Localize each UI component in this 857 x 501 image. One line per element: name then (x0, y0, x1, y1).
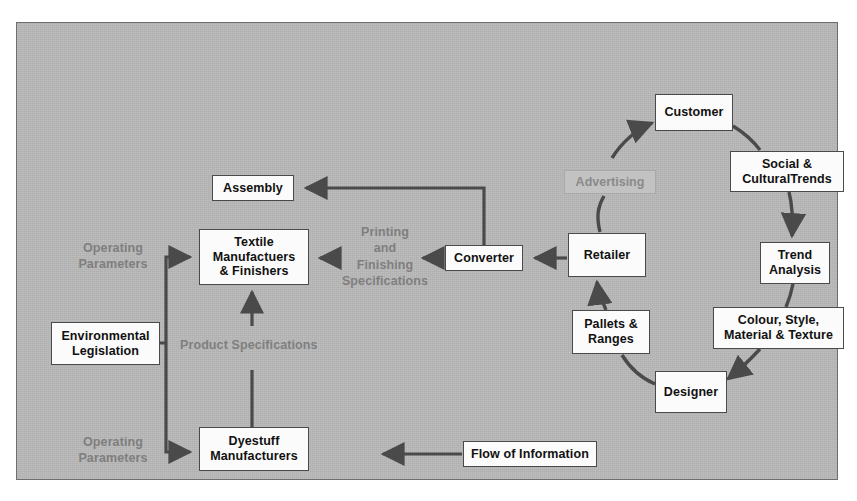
label-operating-parameters-top: Operating Parameters (59, 240, 167, 273)
node-colour-style-material-texture[interactable]: Colour, Style, Material & Texture (713, 307, 844, 349)
node-assembly[interactable]: Assembly (212, 175, 294, 201)
label-operating-parameters-bottom: Operating Parameters (59, 434, 167, 467)
node-customer[interactable]: Customer (655, 94, 733, 131)
node-flow-of-information-legend[interactable]: Flow of Information (463, 441, 597, 467)
node-retailer[interactable]: Retailer (568, 233, 646, 277)
node-trend-analysis[interactable]: Trend Analysis (760, 242, 830, 284)
node-converter[interactable]: Converter (445, 245, 523, 271)
label-product-specifications: Product Specifications (180, 337, 350, 353)
node-social-cultural-trends[interactable]: Social & CulturalTrends (730, 151, 844, 192)
node-designer[interactable]: Designer (655, 371, 727, 413)
label-printing-finishing-specifications: Printing and Finishing Specifications (330, 224, 440, 289)
node-environmental-legislation[interactable]: Environmental Legislation (51, 322, 160, 365)
label-advertising: Advertising (564, 170, 656, 194)
node-pallets-ranges[interactable]: Pallets & Ranges (572, 310, 650, 354)
diagram-page: Assembly Textile Manufactuers & Finisher… (0, 0, 857, 501)
node-dyestuff-manufacturers[interactable]: Dyestuff Manufacturers (199, 427, 309, 471)
node-textile-manufacturers[interactable]: Textile Manufactuers & Finishers (199, 229, 309, 285)
